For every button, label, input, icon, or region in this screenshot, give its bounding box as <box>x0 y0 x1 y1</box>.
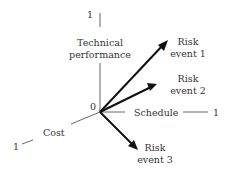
cost-axis-end-tick <box>22 140 33 144</box>
risk-event-2-label-line1: Risk <box>178 73 199 84</box>
risk-event-2-arrowhead-icon <box>147 83 157 91</box>
technical-axis-label-line1: Technical <box>77 37 123 48</box>
schedule-axis-end-label: 1 <box>213 107 219 118</box>
risk-event-2-label-line2: event 2 <box>170 85 206 96</box>
technical-axis-label-line2: performance <box>69 49 131 60</box>
origin-label: 0 <box>90 101 96 112</box>
risk-event-3-label-line2: event 3 <box>137 154 173 165</box>
cost-axis-label: Cost <box>43 127 65 138</box>
schedule-axis-label: Schedule <box>134 107 179 118</box>
risk-event-3-arrow <box>100 112 133 145</box>
technical-axis-end-label: 1 <box>87 9 93 20</box>
cost-axis-line <box>71 112 100 124</box>
cost-axis-end-label: 1 <box>13 141 19 152</box>
risk-event-3-label-line1: Risk <box>145 142 166 153</box>
risk-event-1-label-line1: Risk <box>178 36 199 47</box>
risk-event-1-label-line2: event 1 <box>170 48 206 59</box>
risk-vector-diagram: 1 Technical performance Schedule 1 Cost … <box>0 0 232 173</box>
